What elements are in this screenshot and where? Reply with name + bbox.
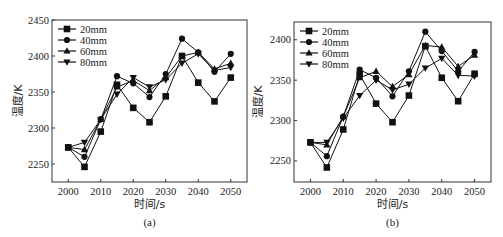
data-point-20mm [406, 92, 413, 99]
y-axis-title: 温度/K [11, 84, 25, 118]
data-point-20mm [146, 119, 153, 126]
legend-label: 20mm [322, 26, 349, 37]
legend-marker-80mm [305, 61, 312, 67]
x-tick-label: 2040 [431, 186, 452, 197]
x-tick-label: 2010 [333, 186, 354, 197]
x-tick-label: 2010 [90, 186, 111, 197]
data-point-40mm [81, 154, 87, 160]
x-tick-label: 2040 [188, 186, 209, 197]
x-tick-label: 2020 [366, 186, 387, 197]
y-tick-label: 2250 [270, 155, 291, 166]
data-point-40mm [422, 29, 428, 35]
legend-label: 60mm [80, 46, 107, 57]
figure: 2000201020202030204020502250230023502400… [0, 0, 503, 237]
legend-marker-40mm [64, 37, 70, 43]
data-point-40mm [179, 36, 185, 42]
x-tick-label: 2050 [464, 186, 485, 197]
chart-panel-b: 2000201020202030204020502250230023502400… [251, 22, 491, 229]
legend-marker-40mm [306, 39, 312, 45]
x-tick-label: 2030 [398, 186, 419, 197]
x-axis-title: 时间/s [377, 198, 409, 211]
x-tick-label: 2000 [58, 186, 79, 197]
panel-label: (a) [143, 216, 156, 229]
y-axis-title: 温度/K [251, 85, 265, 119]
legend-label: 60mm [322, 48, 349, 59]
chart-panel-a: 2000201020202030204020502250230023502400… [11, 15, 247, 230]
data-point-40mm [324, 153, 330, 159]
data-point-60mm [372, 67, 379, 73]
data-point-20mm [130, 105, 137, 112]
data-point-80mm [113, 92, 120, 98]
data-point-20mm [438, 74, 445, 81]
y-tick-label: 2450 [28, 15, 49, 26]
y-tick-label: 2400 [28, 51, 49, 62]
data-point-40mm [228, 51, 234, 57]
series-line-80mm [68, 54, 231, 148]
legend-label: 40mm [322, 37, 349, 48]
data-point-40mm [146, 94, 152, 100]
data-point-40mm [114, 73, 120, 79]
legend: 20mm40mm60mm80mm [300, 26, 349, 70]
legend-marker-80mm [63, 59, 70, 65]
data-point-80mm [323, 140, 330, 146]
data-point-20mm [81, 164, 88, 171]
data-point-20mm [455, 98, 462, 105]
data-point-20mm [373, 100, 380, 107]
legend: 20mm40mm60mm80mm [58, 24, 107, 68]
data-point-80mm [146, 84, 153, 90]
legend-marker-20mm [306, 28, 313, 35]
y-tick-label: 2300 [28, 123, 49, 134]
data-point-20mm [389, 119, 396, 126]
data-point-20mm [324, 164, 331, 171]
y-tick-label: 2350 [270, 75, 291, 86]
y-tick-label: 2250 [28, 159, 49, 170]
x-axis-title: 时间/s [134, 198, 166, 211]
y-tick-label: 2400 [270, 34, 291, 45]
x-tick-label: 2000 [300, 186, 321, 197]
data-point-20mm [195, 79, 202, 86]
legend-label: 80mm [80, 57, 107, 68]
data-point-20mm [162, 93, 169, 100]
x-tick-label: 2020 [123, 186, 144, 197]
series-20mm [65, 53, 234, 170]
series-line-80mm [310, 58, 474, 142]
data-point-40mm [389, 93, 395, 99]
x-tick-label: 2030 [155, 186, 176, 197]
legend-label: 20mm [80, 24, 107, 35]
data-point-80mm [455, 73, 462, 79]
data-point-20mm [97, 128, 104, 135]
series-line-20mm [68, 56, 231, 167]
data-point-20mm [227, 74, 234, 81]
legend-label: 80mm [322, 59, 349, 70]
panel-label: (b) [386, 216, 399, 229]
legend-label: 40mm [80, 35, 107, 46]
data-point-80mm [162, 77, 169, 83]
legend-marker-20mm [64, 26, 71, 33]
data-point-20mm [340, 126, 347, 133]
y-tick-label: 2300 [270, 115, 291, 126]
data-point-20mm [211, 98, 218, 105]
y-tick-label: 2350 [28, 87, 49, 98]
x-tick-label: 2050 [220, 186, 241, 197]
data-point-60mm [227, 59, 234, 65]
data-point-40mm [357, 67, 363, 73]
